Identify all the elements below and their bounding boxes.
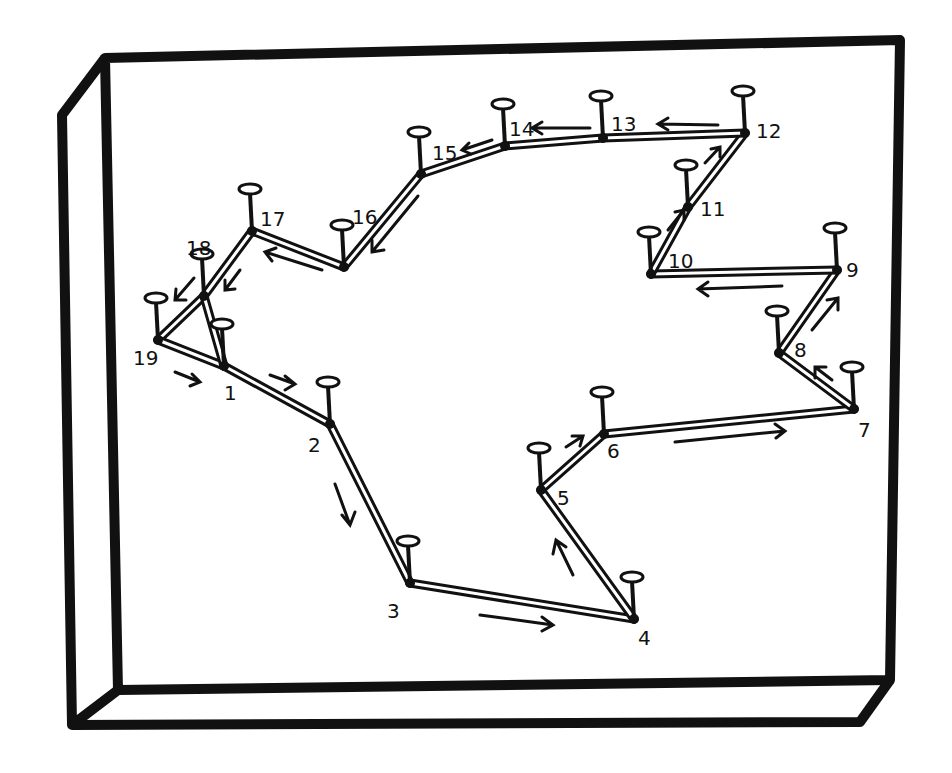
direction-arrows	[175, 118, 838, 631]
nail-label: 15	[432, 141, 457, 165]
nail-head-icon	[317, 377, 339, 387]
string-segment	[779, 353, 854, 409]
string-segment	[224, 366, 330, 424]
nail-head-icon	[732, 86, 754, 96]
nail-label: 18	[186, 236, 211, 260]
nail-label: 9	[846, 258, 859, 282]
nail-6: 6	[591, 387, 620, 463]
string-segment	[688, 133, 745, 207]
nail-head-icon	[675, 160, 697, 170]
nail-head-icon	[824, 223, 846, 233]
string-segment	[410, 583, 634, 619]
string-segment	[541, 490, 634, 619]
nail-head-icon	[145, 293, 167, 303]
nail-head-icon	[528, 443, 550, 453]
nail-label: 7	[858, 418, 871, 442]
nail-head-icon	[239, 184, 261, 194]
nail-head-icon	[492, 99, 514, 109]
nail-label: 6	[607, 439, 620, 463]
nail-17: 17	[239, 184, 285, 236]
nail-head-icon	[408, 127, 430, 137]
nail-head-icon	[211, 319, 233, 329]
nail-head-icon	[638, 227, 660, 237]
nail-label: 10	[668, 249, 693, 273]
nail-head-icon	[841, 362, 863, 372]
nail-head-icon	[591, 387, 613, 397]
nail-label: 2	[308, 433, 321, 457]
nail-label: 4	[638, 626, 651, 650]
nail-label: 5	[557, 486, 570, 510]
string-segment	[604, 409, 854, 434]
nails: 12345678910111213141516171819	[133, 86, 871, 650]
nail-label: 17	[260, 207, 285, 231]
nail-label: 16	[352, 205, 377, 229]
nail-head-icon	[766, 306, 788, 316]
nail-head-icon	[397, 536, 419, 546]
nail-board-diagram: 12345678910111213141516171819	[0, 0, 952, 773]
nail-label: 14	[509, 117, 534, 141]
nail-head-icon	[621, 572, 643, 582]
nail-label: 13	[611, 112, 636, 136]
nail-head-icon	[590, 91, 612, 101]
nail-label: 1	[224, 381, 237, 405]
nail-label: 3	[387, 599, 400, 623]
nail-label: 8	[794, 338, 807, 362]
nail-head-icon	[331, 220, 353, 230]
string-path	[158, 133, 854, 619]
nail-label: 19	[133, 346, 158, 370]
nail-label: 11	[700, 197, 725, 221]
nail-label: 12	[756, 119, 781, 143]
